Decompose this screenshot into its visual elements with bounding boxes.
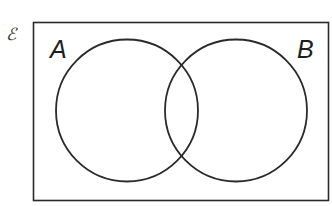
universal-set-rectangle <box>34 23 329 201</box>
venn-diagram <box>0 0 332 206</box>
set-b-label: B <box>297 37 314 62</box>
set-b-circle <box>165 40 307 182</box>
set-a-label: A <box>50 37 67 62</box>
universal-set-label: ℰ <box>6 26 16 43</box>
set-a-circle <box>56 40 198 182</box>
